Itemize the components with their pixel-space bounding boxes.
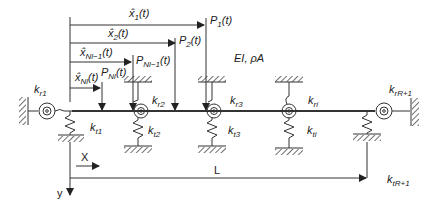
- label-kr2: kr2: [152, 95, 165, 109]
- label-kti: kti: [307, 125, 317, 139]
- label-kri: kri: [308, 95, 318, 109]
- label-x-axis: X: [81, 152, 88, 163]
- label-ktR1: ktR+1: [387, 174, 410, 188]
- label-pn1: PNl−1(t): [136, 55, 170, 69]
- label-xn1: x̂Nl−1(t): [80, 47, 113, 61]
- right-wall: [412, 98, 419, 126]
- label-p2: P2(t): [179, 35, 201, 49]
- label-p1: P1(t): [210, 15, 232, 29]
- label-x1: x̂1(t): [129, 8, 149, 22]
- beam-diagram: x̂1(t) x̂2(t) x̂Nl−1(t) x̂Nl(t) P1(t) P2…: [0, 0, 440, 210]
- label-kr3: kr3: [230, 95, 243, 109]
- label-x2: x̂2(t): [108, 28, 128, 42]
- label-beam-property: EI, ρA: [234, 53, 264, 64]
- diagram-graphics: [0, 0, 440, 210]
- label-xn: x̂Nl(t): [75, 72, 98, 86]
- left-wall: [19, 97, 26, 125]
- label-kr1: kr1: [34, 84, 47, 98]
- label-krR1: krR+1: [389, 84, 412, 98]
- label-length: L: [214, 165, 220, 176]
- label-kt1: kt1: [90, 122, 102, 136]
- label-pn: PNl(t): [101, 67, 126, 81]
- label-kt2: kt2: [148, 125, 160, 139]
- label-kt3: kt3: [228, 125, 240, 139]
- label-y-axis: y: [57, 188, 63, 199]
